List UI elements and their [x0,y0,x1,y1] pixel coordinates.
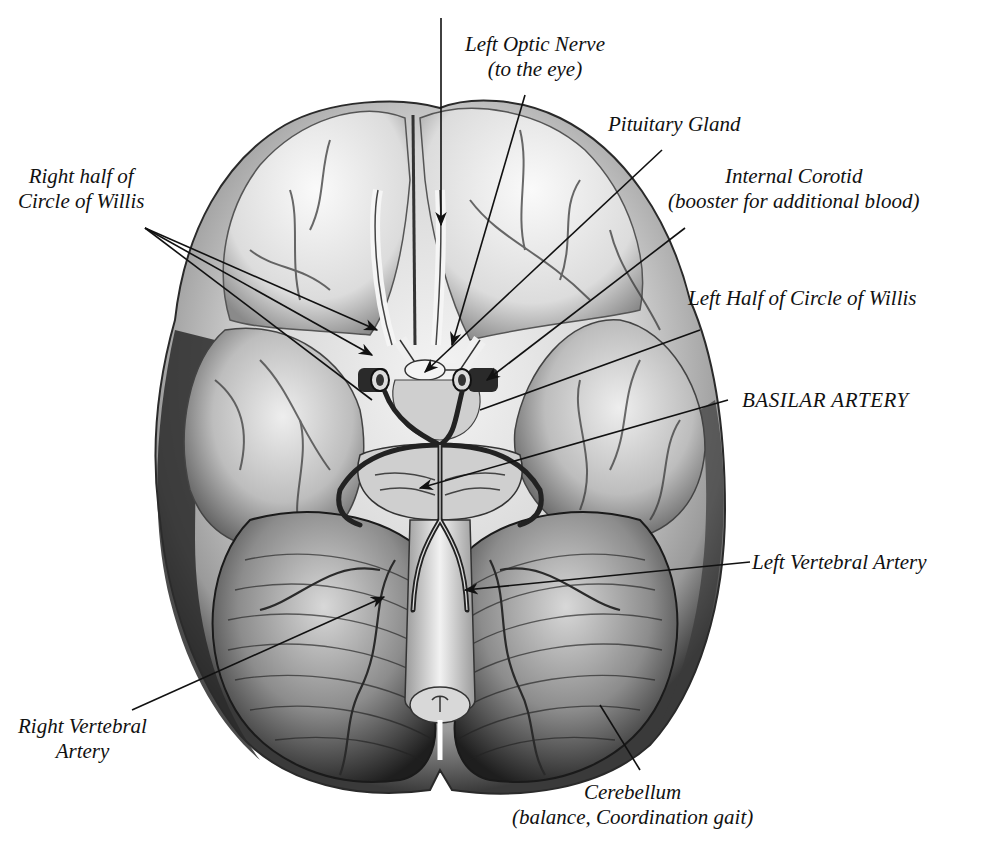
brain-diagram: Left Optic Nerve (to the eye) Pituitary … [0,0,992,845]
label-left-vertebral-artery: Left Vertebral Artery [752,550,927,575]
label-right-half-circle-of-willis: Right half of Circle of Willis [18,164,144,214]
label-right-vertebral-artery: Right Vertebral Artery [18,714,147,764]
label-cerebellum: Cerebellum (balance, Coordination gait) [512,780,753,830]
label-basilar-artery: BASILAR ARTERY [742,388,909,413]
brain-illustration [0,0,992,845]
label-pituitary-gland: Pituitary Gland [608,112,740,137]
label-left-optic-nerve: Left Optic Nerve (to the eye) [465,32,605,82]
label-internal-carotid: Internal Corotid (booster for additional… [668,164,919,214]
label-left-half-circle-of-willis: Left Half of Circle of Willis [688,286,916,311]
